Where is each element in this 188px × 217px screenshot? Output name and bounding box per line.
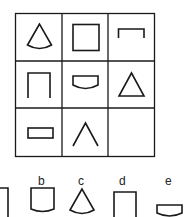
option-c-sector-icon [70, 189, 94, 214]
cell-1-2-square-icon [73, 25, 99, 51]
option-a-partial-icon [0, 188, 8, 217]
grid [16, 14, 155, 157]
cell-3-1-rectangle-icon [28, 128, 53, 138]
puzzle-figure: b c d e [0, 0, 188, 217]
option-d-pi-bracket-icon [114, 192, 136, 217]
cell-3-2-chevron-icon [73, 123, 98, 146]
cell-2-2-curved-cup-icon [73, 76, 98, 89]
option-b-cup-icon [31, 188, 54, 212]
option-c-label: c [78, 175, 84, 187]
matrix-puzzle-svg [0, 0, 188, 217]
option-e-curved-cup-icon [157, 205, 182, 216]
option-d-label: d [119, 175, 126, 187]
cell-1-1-sector-icon [28, 24, 52, 49]
cell-2-3-triangle-icon [119, 73, 144, 96]
cell-1-3-bracket-icon [119, 29, 145, 38]
option-e-label: e [165, 175, 172, 187]
cell-2-1-pi-bracket-icon [28, 73, 50, 98]
option-b-label: b [38, 175, 45, 187]
